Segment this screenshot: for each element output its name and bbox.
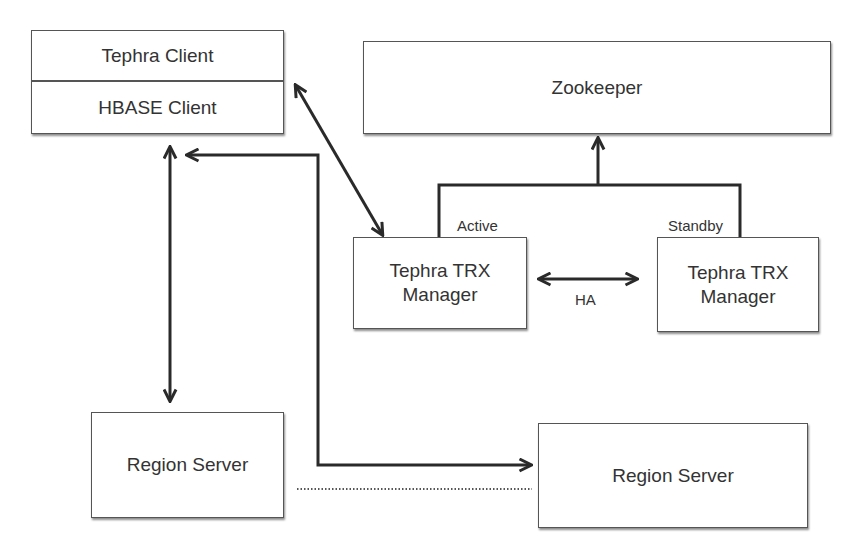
active-label: Active (457, 217, 498, 234)
client-stack[interactable]: Tephra Client HBASE Client (31, 30, 284, 134)
zookeeper-box[interactable]: Zookeeper (363, 41, 831, 134)
trx-manager-standby-box[interactable]: Tephra TRX Manager (657, 237, 819, 332)
trx-standby-line1: Tephra TRX (687, 261, 788, 285)
ha-label: HA (575, 291, 596, 308)
trx-standby-line2: Manager (701, 285, 776, 309)
standby-label: Standby (668, 217, 723, 234)
trx-manager-active-box[interactable]: Tephra TRX Manager (353, 237, 527, 329)
trx-active-line1: Tephra TRX (389, 259, 490, 283)
region-server-left-box[interactable]: Region Server (91, 412, 284, 518)
hbase-client-box[interactable]: HBASE Client (32, 82, 283, 133)
region-server-right-box[interactable]: Region Server (538, 423, 808, 528)
trx-active-line2: Manager (403, 283, 478, 307)
tephra-client-box[interactable]: Tephra Client (32, 31, 283, 82)
